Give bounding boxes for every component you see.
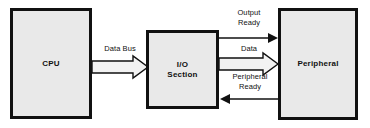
peripheral-block: Peripheral [278, 8, 358, 120]
peripheral-block-label: Peripheral [297, 59, 338, 69]
data-bus-arrow [92, 56, 148, 78]
output-ready-arrowhead [268, 33, 278, 43]
data-bus-label: Data Bus [92, 44, 148, 54]
io-section-block-label: I/O Section [167, 60, 197, 80]
output-ready-label: Output Ready [218, 8, 280, 27]
io-section-block: I/O Section [146, 30, 219, 109]
data-label: Data [221, 44, 277, 54]
peripheral-ready-label: Peripheral Ready [215, 72, 285, 91]
peripheral-ready-arrowhead [220, 94, 230, 104]
block-diagram: CPU I/O Section Peripheral Data Bus Outp… [0, 0, 370, 128]
cpu-block: CPU [10, 8, 92, 119]
cpu-block-label: CPU [42, 59, 60, 69]
